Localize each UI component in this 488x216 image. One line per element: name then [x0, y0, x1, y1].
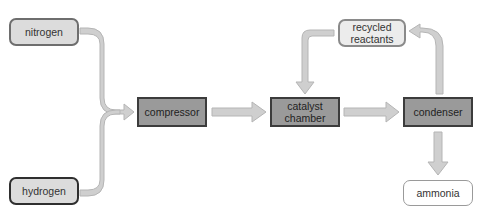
arrow-nitrogen-to-compressor: [80, 28, 134, 120]
node-label: recycled reactants: [346, 21, 398, 45]
arrow-hydrogen-to-compressor: [80, 110, 120, 196]
node-recycled-reactants: recycled reactants: [338, 19, 406, 47]
node-label: nitrogen: [25, 26, 63, 38]
arrow-compressor-to-catalyst: [212, 102, 266, 122]
node-label: hydrogen: [22, 185, 66, 197]
node-catalyst-chamber: catalyst chamber: [270, 97, 340, 127]
arrow-recycled-to-catalyst: [296, 30, 334, 94]
arrow-catalyst-to-condenser: [344, 102, 399, 122]
node-label: condenser: [413, 106, 462, 118]
node-nitrogen: nitrogen: [9, 18, 79, 46]
node-label: compressor: [145, 106, 200, 118]
node-condenser: condenser: [403, 97, 473, 127]
arrow-condenser-to-recycled: [409, 24, 443, 94]
node-ammonia: ammonia: [403, 180, 473, 206]
node-label: ammonia: [416, 187, 459, 199]
node-label: catalyst chamber: [280, 100, 330, 124]
node-compressor: compressor: [137, 97, 207, 127]
node-hydrogen: hydrogen: [9, 177, 79, 205]
arrow-condenser-to-ammonia: [428, 132, 448, 175]
